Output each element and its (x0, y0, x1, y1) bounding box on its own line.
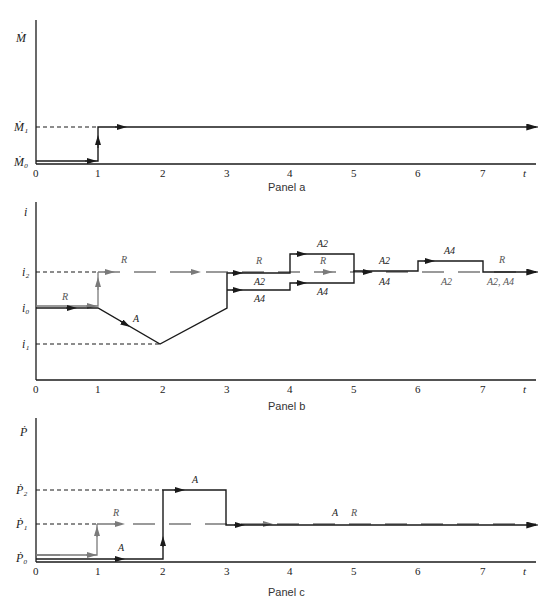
svg-text:0: 0 (33, 383, 39, 395)
level-label-m0: Ṁ₀ (13, 155, 28, 169)
svg-text:A2: A2 (253, 276, 265, 287)
svg-text:7: 7 (480, 383, 486, 395)
svg-text:4: 4 (287, 383, 293, 395)
level-label-i2: i₂ (22, 265, 30, 279)
level-label-m1: Ṁ₁ (13, 120, 28, 134)
panel-b: i i₂ i₀ i₁ R R A R A2 A4 A2 R A4 (22, 202, 538, 412)
series-r (36, 524, 97, 555)
svg-text:5: 5 (351, 383, 357, 395)
panel-caption: Panel a (268, 181, 306, 193)
svg-text:R: R (112, 507, 119, 518)
svg-text:5: 5 (351, 167, 357, 179)
svg-text:6: 6 (415, 565, 421, 577)
series-mdot (36, 127, 536, 161)
y-axis-label: i (24, 205, 27, 219)
svg-text:R: R (319, 255, 326, 266)
level-label-p2: Ṗ₂ (15, 483, 28, 497)
svg-text:R: R (350, 507, 357, 518)
svg-text:4: 4 (287, 167, 293, 179)
svg-text:3: 3 (224, 167, 230, 179)
svg-text:A: A (331, 507, 339, 518)
svg-text:1: 1 (95, 383, 101, 395)
svg-text:A: A (117, 542, 125, 553)
y-axis-label: Ṗ (19, 425, 28, 439)
svg-text:A2: A2 (440, 276, 452, 287)
svg-text:A4: A4 (443, 245, 455, 256)
x-ticks: 0 1 2 3 4 5 6 7 t (33, 167, 527, 179)
svg-text:R: R (120, 254, 127, 265)
x-ticks: 0 1 2 3 4 5 6 7 t (33, 565, 527, 577)
svg-text:t: t (523, 167, 527, 179)
svg-text:6: 6 (415, 383, 421, 395)
svg-text:A4: A4 (378, 276, 390, 287)
svg-text:A: A (191, 474, 199, 485)
svg-text:1: 1 (95, 167, 101, 179)
svg-text:A2: A2 (378, 255, 390, 266)
svg-text:2: 2 (160, 167, 166, 179)
level-label-p1: Ṗ₁ (15, 517, 28, 531)
svg-text:4: 4 (287, 565, 293, 577)
svg-text:2: 2 (160, 383, 166, 395)
svg-text:t: t (523, 565, 527, 577)
svg-text:7: 7 (480, 167, 486, 179)
svg-text:0: 0 (33, 167, 39, 179)
svg-text:0: 0 (33, 565, 39, 577)
svg-text:1: 1 (95, 565, 101, 577)
y-axis-label: Ṁ (15, 31, 27, 45)
svg-text:6: 6 (415, 167, 421, 179)
series-a2 (36, 254, 354, 344)
svg-text:R: R (61, 291, 68, 302)
svg-text:R: R (498, 254, 505, 265)
x-ticks: 0 1 2 3 4 5 6 7 t (33, 383, 527, 395)
svg-text:A4: A4 (316, 286, 328, 297)
svg-text:3: 3 (224, 565, 230, 577)
svg-text:5: 5 (351, 565, 357, 577)
panel-caption: Panel c (268, 586, 305, 598)
svg-text:3: 3 (224, 383, 230, 395)
svg-text:t: t (523, 383, 527, 395)
svg-text:A2: A2 (316, 238, 328, 249)
panel-c: Ṗ Ṗ₂ Ṗ₁ Ṗ₀ R A A A R 0 1 2 3 4 5 (15, 418, 538, 598)
svg-text:R: R (255, 255, 262, 266)
level-label-i1: i₁ (22, 337, 30, 351)
svg-text:7: 7 (480, 565, 486, 577)
level-label-i0: i₀ (22, 301, 30, 315)
svg-text:A2, A4: A2, A4 (486, 276, 514, 287)
svg-text:A: A (132, 313, 140, 324)
figure: Ṁ Ṁ₁ Ṁ₀ 0 1 2 3 4 5 6 7 t Panel a i i₂ i… (0, 0, 550, 601)
level-label-p0: Ṗ₀ (15, 551, 28, 565)
svg-text:2: 2 (160, 565, 166, 577)
svg-text:A4: A4 (253, 293, 265, 304)
panel-a: Ṁ Ṁ₁ Ṁ₀ 0 1 2 3 4 5 6 7 t Panel a (13, 20, 538, 193)
panel-caption: Panel b (268, 400, 305, 412)
